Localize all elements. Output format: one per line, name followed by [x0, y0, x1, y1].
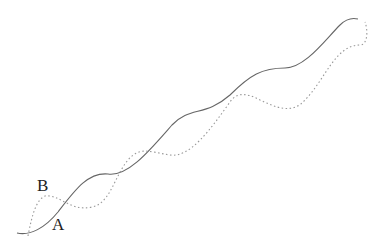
label-a: A: [52, 216, 64, 233]
label-b: B: [37, 177, 48, 194]
curve-b-dotted: [28, 22, 367, 236]
diagram-canvas: A B: [0, 0, 379, 241]
curve-a-solid: [17, 18, 358, 233]
curves-svg: [0, 0, 379, 241]
